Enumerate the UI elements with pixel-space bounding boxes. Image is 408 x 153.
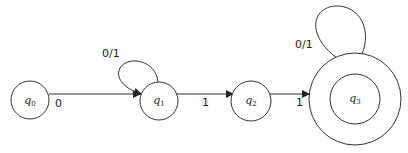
label-q3-q3: 0/1: [295, 38, 313, 51]
label-q1-q1: 0/1: [102, 47, 120, 60]
label-q0-q1: 0: [55, 97, 62, 110]
state-q2: q2: [231, 81, 271, 121]
label-q1-q2: 1: [202, 96, 209, 109]
state-q1: q1: [140, 82, 178, 120]
automaton-diagram: q0 q1 q2 q3 0 0/1 1 1 0/1: [0, 0, 408, 153]
state-q3-accepting: q3: [309, 53, 401, 145]
state-q0: q0: [11, 81, 49, 119]
label-q2-q3: 1: [296, 96, 303, 109]
